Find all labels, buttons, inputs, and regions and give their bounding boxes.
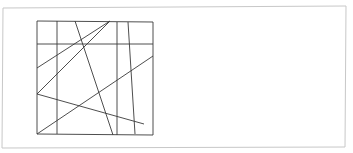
diagonal-2 (37, 21, 110, 68)
figure-canvas (0, 0, 353, 153)
outer-square (37, 21, 153, 135)
diagonal-lines (37, 21, 153, 135)
square-figure (37, 21, 153, 135)
diagonal-3 (75, 21, 113, 135)
line-drawing-svg (0, 0, 353, 153)
diagonal-5 (37, 56, 153, 134)
diagonal-4 (128, 22, 135, 134)
diagonal-1 (37, 21, 110, 94)
grid-lines (37, 21, 153, 135)
